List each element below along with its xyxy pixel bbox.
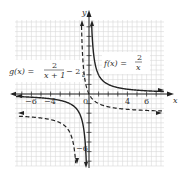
svg-text:x + 1: x + 1 <box>44 71 65 80</box>
x-tick-label: −6 <box>25 97 37 106</box>
origin-label: 0 <box>83 97 88 106</box>
svg-text:2: 2 <box>52 61 57 70</box>
g-arrow-left-icon <box>18 111 24 115</box>
x-axis <box>10 92 174 97</box>
y-tick-label: −6 <box>76 144 88 153</box>
y-axis-label: y <box>81 8 87 17</box>
x-tick-label: −4 <box>44 97 56 106</box>
graph: y x −6 −4 0 4 6 2 −6 f(x) = 2 x g(x) = 2… <box>0 0 184 174</box>
x-axis-arrow-left-icon <box>10 92 16 96</box>
svg-text:g(x) =: g(x) = <box>9 67 34 76</box>
y-axis-arrow-icon <box>87 10 92 17</box>
x-axis-label: x <box>173 96 178 105</box>
x-tick-label: 4 <box>125 97 130 106</box>
x-tick-label: 6 <box>144 97 149 106</box>
f-equation-label: f(x) = 2 x <box>102 52 150 74</box>
f-arrow-down-icon <box>84 162 88 168</box>
svg-text:x: x <box>136 63 141 72</box>
f-arrow-up-icon <box>90 20 94 26</box>
g-arrow-up-icon <box>80 20 84 26</box>
svg-text:− 2: − 2 <box>66 67 80 76</box>
svg-text:f(x) =: f(x) = <box>103 59 127 68</box>
svg-text:2: 2 <box>137 53 142 62</box>
g-equation-label: g(x) = 2 x + 1 − 2 <box>8 60 82 82</box>
